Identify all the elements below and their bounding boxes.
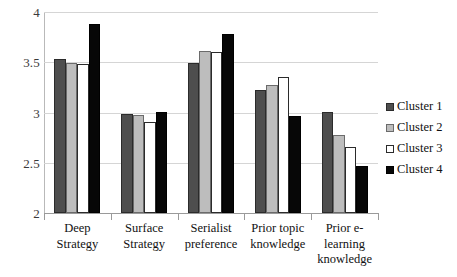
legend-item[interactable]: Cluster 2 — [386, 117, 457, 138]
bar — [356, 166, 368, 213]
x-axis-label-line: Serialist — [174, 221, 249, 237]
y-axis-tick-label: 2 — [14, 207, 40, 220]
legend-item[interactable]: Cluster 3 — [386, 138, 457, 159]
legend-item-label: Cluster 1 — [397, 100, 442, 113]
x-axis-category-label: SurfaceStrategy — [107, 221, 182, 252]
x-axis-tick — [178, 213, 179, 220]
x-axis-label-line: Surface — [107, 221, 182, 237]
bar — [278, 77, 290, 213]
x-axis-tick — [378, 213, 379, 220]
bar — [322, 112, 334, 214]
x-axis-category-label: DeepStrategy — [40, 221, 115, 252]
x-axis-label-line: Strategy — [40, 237, 115, 253]
bar — [345, 147, 357, 213]
bar — [121, 114, 133, 213]
x-axis-label-line: Strategy — [107, 237, 182, 253]
bar — [144, 122, 156, 213]
legend-item[interactable]: Cluster 4 — [386, 159, 457, 180]
x-axis-category-label: Prior e-learningknowledge — [307, 221, 382, 268]
x-axis-label-line: Prior topic — [240, 221, 315, 237]
legend-swatch-icon — [386, 145, 394, 153]
x-axis-tick — [311, 213, 312, 220]
x-axis-category-labels: DeepStrategySurfaceStrategySerialistpref… — [44, 221, 378, 277]
x-axis-label-line: learning — [307, 237, 382, 253]
bar-group — [311, 12, 378, 213]
x-axis-label-line: Prior e- — [307, 221, 382, 237]
bar-group — [44, 12, 111, 213]
legend-item[interactable]: Cluster 1 — [386, 96, 457, 117]
bar — [266, 85, 278, 213]
bar — [222, 34, 234, 213]
y-axis-tick-label: 2.5 — [14, 157, 40, 170]
bar — [289, 116, 301, 213]
x-axis-label-line: Deep — [40, 221, 115, 237]
x-axis-tick — [244, 213, 245, 220]
bar-group — [244, 12, 311, 213]
y-axis-tick-labels: 43.532.52 — [14, 0, 40, 277]
bar — [188, 63, 200, 213]
bar-group — [111, 12, 178, 213]
x-axis-category-label: Prior topicknowledge — [240, 221, 315, 252]
bar — [156, 112, 168, 214]
legend-swatch-icon — [386, 103, 394, 111]
y-axis-tick-label: 3 — [14, 107, 40, 120]
bar — [211, 52, 223, 213]
x-axis-label-line: knowledge — [240, 237, 315, 253]
y-axis-tick-label: 3.5 — [14, 56, 40, 69]
legend-item-label: Cluster 2 — [397, 121, 442, 134]
y-axis-tick-label: 4 — [14, 6, 40, 19]
x-axis-label-line: knowledge — [307, 252, 382, 268]
legend-swatch-icon — [386, 124, 394, 132]
legend-item-label: Cluster 4 — [397, 163, 442, 176]
x-axis-label-line: preference — [174, 237, 249, 253]
x-axis-category-label: Serialistpreference — [174, 221, 249, 252]
x-axis-tick — [111, 213, 112, 220]
bar — [199, 51, 211, 213]
bar — [255, 90, 267, 213]
bar — [133, 115, 145, 213]
bar — [54, 59, 66, 213]
bar — [89, 24, 101, 213]
x-axis-line — [44, 213, 378, 214]
bar — [66, 63, 78, 213]
bar-group — [178, 12, 245, 213]
x-axis-tick — [44, 213, 45, 220]
legend-item-label: Cluster 3 — [397, 142, 442, 155]
legend-swatch-icon — [386, 166, 394, 174]
bar — [333, 135, 345, 213]
bar-chart-figure: 43.532.52 DeepStrategySurfaceStrategySer… — [0, 0, 457, 277]
chart-legend: Cluster 1Cluster 2Cluster 3Cluster 4 — [386, 96, 457, 180]
plot-area — [44, 12, 378, 213]
bar — [77, 64, 89, 213]
